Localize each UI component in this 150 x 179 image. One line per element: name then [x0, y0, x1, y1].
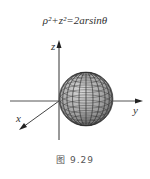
- x-axis-label: x: [15, 112, 21, 124]
- y-axis-label: y: [132, 104, 138, 116]
- x-axis-arrow: [19, 123, 27, 130]
- figure-caption: 图 9.29: [0, 153, 150, 166]
- z-axis-arrow: [57, 40, 62, 48]
- x-axis: [23, 101, 59, 127]
- z-axis-label: z: [50, 40, 56, 52]
- y-axis-arrow: [135, 99, 143, 104]
